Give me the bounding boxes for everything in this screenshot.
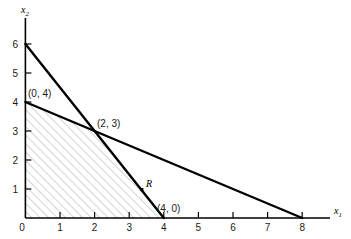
x-tick-label-2: 2 <box>92 222 98 233</box>
y-tick-label-1: 1 <box>12 184 18 195</box>
vertex-label-0-4: (0, 4) <box>28 88 51 99</box>
x-tick-label-3: 3 <box>126 222 132 233</box>
vertex-label-2-3: (2, 3) <box>97 118 120 129</box>
region-label-r: R <box>145 178 152 189</box>
x-tick-label-5: 5 <box>196 222 202 233</box>
x-axis-title: x1 <box>333 205 342 219</box>
x-tick-label-1: 1 <box>57 222 63 233</box>
linear-programming-graph: 0 1 2 3 4 5 6 7 8 1 2 3 4 5 6 x2 x1 (0, … <box>0 0 351 239</box>
vertex-label-4-0: (4, 0) <box>157 203 180 214</box>
x-tick-label-7: 7 <box>265 222 271 233</box>
x-tick-label-0: 0 <box>19 222 25 233</box>
y-tick-label-2: 2 <box>12 155 18 166</box>
region-r-dot <box>140 188 143 191</box>
x-tick-label-4: 4 <box>161 222 167 233</box>
y-tick-label-3: 3 <box>12 126 18 137</box>
x-tick-label-8: 8 <box>299 222 305 233</box>
y-tick-label-6: 6 <box>12 39 18 50</box>
feasible-region <box>25 102 163 218</box>
y-tick-label-5: 5 <box>12 68 18 79</box>
y-axis-title-subscript: 2 <box>25 10 29 18</box>
x-axis-title-subscript: 1 <box>338 211 342 219</box>
plot-canvas: 0 1 2 3 4 5 6 7 8 1 2 3 4 5 6 x2 x1 (0, … <box>0 0 351 239</box>
x-tick-label-6: 6 <box>230 222 236 233</box>
y-tick-label-4: 4 <box>12 97 18 108</box>
y-axis-title: x2 <box>20 4 29 18</box>
